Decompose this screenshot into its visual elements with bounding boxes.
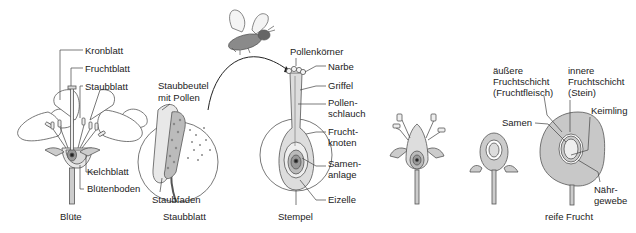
label-kelchblatt: Kelchblatt bbox=[87, 166, 129, 177]
label-schlauch: schlauch bbox=[328, 108, 366, 119]
label-aeussere: äußere bbox=[493, 65, 523, 76]
label-samen-frucht: Samen bbox=[502, 117, 532, 128]
developing-fruit-2 bbox=[470, 133, 518, 204]
bee-icon bbox=[227, 10, 275, 55]
diagram-canvas bbox=[0, 0, 636, 233]
label-fruchtschicht-innen: Fruchtschicht bbox=[568, 76, 625, 87]
label-staubfaden: Staubfaden bbox=[152, 194, 201, 205]
caption-stempel: Stempel bbox=[278, 211, 313, 222]
label-frucht: Frucht- bbox=[328, 126, 358, 137]
label-pollenkoerner: Pollenkörner bbox=[290, 46, 343, 57]
label-narbe: Narbe bbox=[328, 61, 354, 72]
label-naehr: Nähr- bbox=[594, 184, 618, 195]
label-knoten: knoten bbox=[328, 137, 357, 148]
caption-staubblatt: Staubblatt bbox=[163, 211, 206, 222]
caption-reife-frucht: reife Frucht bbox=[545, 211, 593, 222]
label-griffel: Griffel bbox=[328, 80, 353, 91]
label-fruchtblatt: Fruchtblatt bbox=[85, 63, 130, 74]
label-bluetenboden: Blütenboden bbox=[87, 183, 140, 194]
stamen-drawing bbox=[138, 104, 218, 202]
label-stein: (Stein) bbox=[568, 87, 596, 98]
developing-fruit-1 bbox=[390, 114, 445, 204]
label-samen: Samen- bbox=[328, 158, 361, 169]
label-kronblatt: Kronblatt bbox=[85, 45, 123, 56]
label-eizelle: Eizelle bbox=[328, 194, 356, 205]
label-staubblatt: Staubblatt bbox=[85, 81, 128, 92]
label-staubbeutel: Staubbeutel bbox=[158, 80, 209, 91]
pollination-arrow bbox=[208, 57, 290, 110]
label-innere: innere bbox=[568, 65, 594, 76]
label-fruchtfleisch: (Fruchtfleisch) bbox=[493, 87, 553, 98]
label-pollen: Pollen- bbox=[328, 97, 358, 108]
label-fruchtschicht-aussen: Fruchtschicht bbox=[493, 76, 550, 87]
label-keimling: Keimling bbox=[591, 105, 627, 116]
caption-bluete: Blüte bbox=[60, 211, 82, 222]
pistil-drawing bbox=[260, 66, 332, 205]
label-mit-pollen: mit Pollen bbox=[158, 92, 200, 103]
label-anlage: anlage bbox=[328, 169, 357, 180]
label-gewebe: gewebe bbox=[594, 195, 627, 206]
